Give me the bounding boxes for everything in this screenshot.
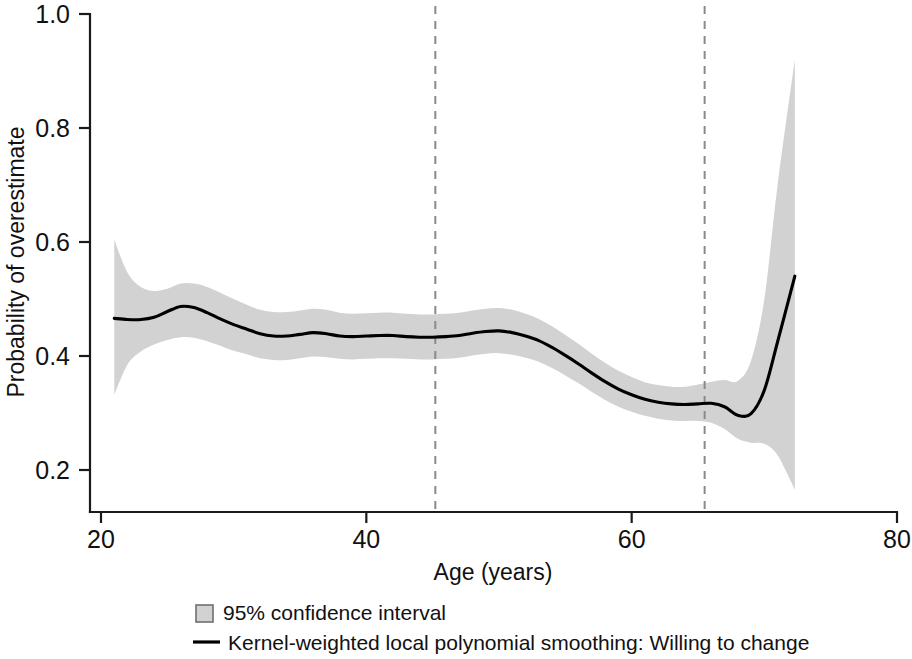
legend-ci-swatch-icon: [196, 605, 213, 622]
chart-figure: 0.20.40.60.81.0 20406080 Age (years) Pro…: [0, 0, 912, 659]
x-axis-title: Age (years): [434, 559, 553, 585]
chart-legend: 95% confidence interval Kernel-weighted …: [193, 601, 809, 654]
y-tick-label: 0.6: [35, 228, 70, 256]
kernel-smoothing-chart: 0.20.40.60.81.0 20406080 Age (years) Pro…: [0, 0, 912, 659]
legend-line-label: Kernel-weighted local polynomial smoothi…: [228, 631, 809, 654]
y-tick-label: 0.4: [35, 342, 70, 370]
x-tick-label: 60: [618, 525, 646, 553]
y-axis-title: Probability of overestimate: [3, 126, 29, 397]
y-tick-label: 1.0: [35, 0, 70, 28]
y-tick-label: 0.8: [35, 114, 70, 142]
y-axis-ticks: 0.20.40.60.81.0: [35, 0, 90, 484]
x-tick-label: 80: [883, 525, 911, 553]
legend-ci-label: 95% confidence interval: [223, 601, 446, 624]
vertical-reference-lines: [435, 6, 704, 512]
x-tick-label: 20: [87, 525, 115, 553]
confidence-interval-band: [114, 60, 795, 490]
x-tick-label: 40: [352, 525, 380, 553]
x-axis-ticks: 20406080: [87, 512, 911, 553]
y-tick-label: 0.2: [35, 456, 70, 484]
